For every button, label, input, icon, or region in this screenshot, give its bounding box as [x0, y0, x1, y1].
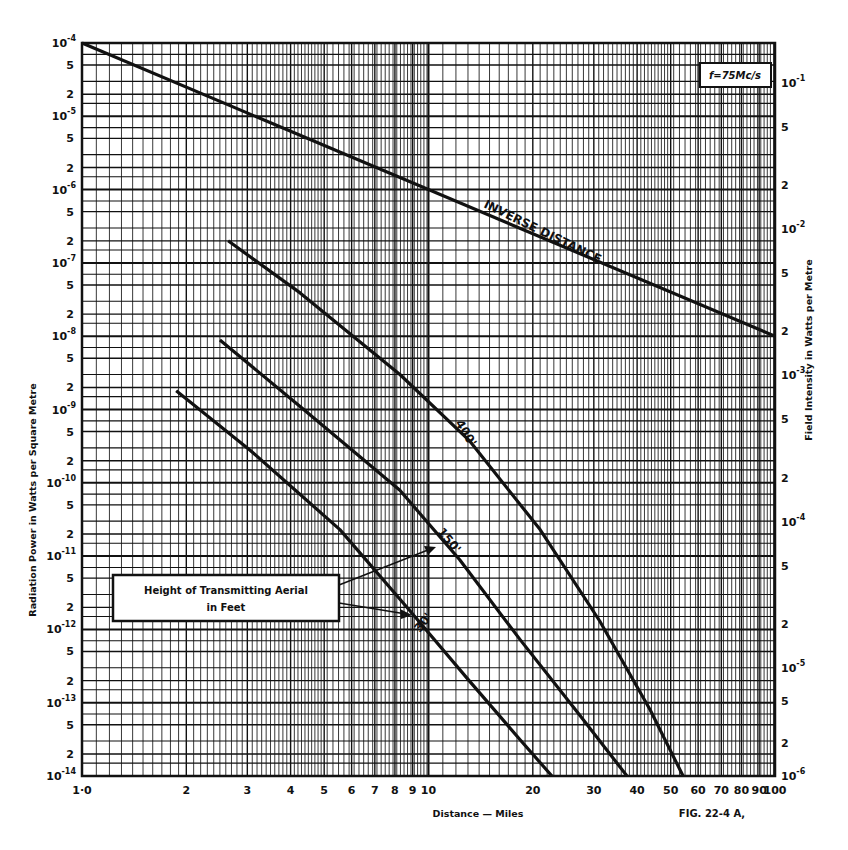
- y-tick-minor: 2: [66, 675, 74, 688]
- x-tick: 3: [243, 784, 251, 797]
- y-tick-decade: 10-14: [46, 767, 76, 783]
- y-tick-decade: 10-12: [46, 620, 76, 636]
- y-tick-decade: 10-4: [52, 34, 77, 50]
- y-tick-minor: 5: [66, 645, 74, 658]
- y-tick-decade: 10-11: [46, 547, 76, 563]
- label-400ft: 400': [452, 417, 479, 449]
- y2-tick-decade: 10-3: [781, 366, 805, 382]
- x-axis-title: Distance — Miles: [433, 808, 524, 819]
- y-tick-minor: 2: [66, 308, 74, 321]
- y-tick-minor: 5: [66, 719, 74, 732]
- frequency-label: f=75Mc/s: [709, 70, 761, 81]
- label-30ft: 30': [411, 610, 435, 635]
- y-tick-minor: 2: [66, 88, 74, 101]
- y-tick-decade: 10-7: [52, 254, 76, 270]
- y2-axis-title: Field Intensity in Watts per Metre: [803, 259, 814, 440]
- y-axis-title: Radiation Power in Watts per Square Metr…: [27, 383, 38, 616]
- y-tick-minor: 5: [66, 426, 74, 439]
- figure-label: FIG. 22-4 A,: [679, 808, 745, 819]
- y-tick-minor: 2: [66, 528, 74, 541]
- y-tick-minor: 5: [66, 206, 74, 219]
- y-tick-decade: 10-5: [52, 107, 77, 123]
- y-tick-minor: 5: [66, 499, 74, 512]
- y-tick-minor: 2: [66, 235, 74, 248]
- y-tick-minor: 2: [66, 162, 74, 175]
- x-tick: 100: [764, 784, 787, 797]
- annotation-box: [113, 575, 339, 621]
- annotation-line1: Height of Transmitting Aerial: [144, 585, 308, 596]
- y-tick-decade: 10-10: [46, 474, 76, 490]
- label-150ft: 150': [435, 525, 464, 556]
- x-tick: 6: [348, 784, 356, 797]
- x-tick: 10: [421, 784, 437, 797]
- x-tick: 40: [629, 784, 645, 797]
- y-tick-decade: 10-6: [52, 181, 77, 197]
- x-tick: 1·0: [72, 784, 92, 797]
- y2-tick-decade: 10-1: [781, 74, 806, 90]
- y-tick-minor: 2: [66, 748, 74, 761]
- y-tick-minor: 5: [66, 279, 74, 292]
- y2-tick-minor: 2: [781, 472, 789, 485]
- grid-major-lines: [82, 43, 775, 776]
- annotation-line2: in Feet: [207, 602, 246, 613]
- y2-tick-minor: 5: [781, 695, 789, 708]
- y2-tick-minor: 2: [781, 618, 789, 631]
- y-tick-minor: 2: [66, 381, 74, 394]
- arrow-to-150ft: [339, 548, 433, 585]
- x-tick: 50: [663, 784, 679, 797]
- x-tick: 80: [734, 784, 750, 797]
- y2-axis-ticks: 10-15210-25210-35210-45210-55210-6: [781, 74, 806, 783]
- x-tick: 70: [714, 784, 730, 797]
- propagation-chart: 10-45210-55210-65210-75210-85210-95210-1…: [0, 0, 848, 850]
- label-inverse-distance: INVERSE DISTANCE: [482, 197, 604, 266]
- y2-tick-decade: 10-5: [781, 659, 806, 675]
- y-tick-minor: 5: [66, 59, 74, 72]
- x-tick: 60: [690, 784, 706, 797]
- x-tick: 8: [391, 784, 399, 797]
- x-tick: 30: [586, 784, 602, 797]
- x-tick: 4: [287, 784, 295, 797]
- y-tick-minor: 5: [66, 572, 74, 585]
- y2-tick-minor: 5: [781, 267, 789, 280]
- y2-tick-decade: 10-4: [781, 513, 806, 529]
- y-tick-minor: 2: [66, 601, 74, 614]
- y-tick-minor: 5: [66, 132, 74, 145]
- y-tick-decade: 10-9: [52, 401, 77, 417]
- y2-tick-minor: 2: [781, 325, 789, 338]
- y-tick-decade: 10-13: [46, 694, 76, 710]
- y2-tick-minor: 5: [781, 413, 789, 426]
- y-axis-ticks: 10-45210-55210-65210-75210-85210-95210-1…: [46, 34, 76, 783]
- y-tick-decade: 10-8: [52, 327, 77, 343]
- x-tick: 5: [320, 784, 328, 797]
- y2-tick-minor: 5: [781, 121, 789, 134]
- x-tick: 2: [182, 784, 190, 797]
- x-tick: 7: [371, 784, 379, 797]
- y2-tick-decade: 10-6: [781, 767, 806, 783]
- series-line-2: [220, 340, 627, 776]
- y2-tick-minor: 2: [781, 179, 789, 192]
- y-tick-minor: 5: [66, 352, 74, 365]
- y2-tick-decade: 10-2: [781, 220, 805, 236]
- y2-tick-minor: 5: [781, 560, 789, 573]
- y-tick-minor: 2: [66, 455, 74, 468]
- x-axis-ticks: 1·023456789102030405060708090100: [72, 784, 787, 797]
- x-tick: 9: [409, 784, 417, 797]
- y2-tick-minor: 2: [781, 737, 789, 750]
- x-tick: 20: [525, 784, 541, 797]
